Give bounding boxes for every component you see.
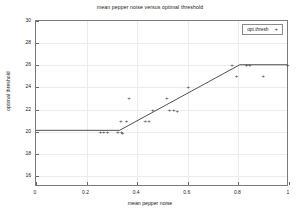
data-point-marker <box>261 74 266 79</box>
chart-title: mean pepper noise versus optimal thresho… <box>0 4 300 10</box>
x-tick-label: 0.4 <box>126 189 146 195</box>
y-tick-label: 20 <box>15 128 31 134</box>
y-tick-label: 22 <box>15 106 31 112</box>
x-tick-label: 0.6 <box>177 189 197 195</box>
data-point-marker <box>186 85 191 90</box>
y-axis-label: optimal threshold <box>5 51 11 131</box>
y-tick-label: 24 <box>15 83 31 89</box>
y-tick-label: 16 <box>15 172 31 178</box>
plot-area: opt.thresh + <box>35 20 288 186</box>
x-tick-label: 0.2 <box>76 189 96 195</box>
data-point-marker <box>285 63 290 68</box>
x-tick-label: 1 <box>278 189 298 195</box>
x-tick-mark <box>289 182 290 185</box>
x-axis-label: mean pepper noise <box>0 200 300 206</box>
data-point-marker <box>147 118 152 123</box>
y-tick-label: 28 <box>15 39 31 45</box>
y-tick-label: 30 <box>15 17 31 23</box>
data-point-marker <box>175 108 180 113</box>
y-tick-label: 18 <box>15 150 31 156</box>
legend: opt.thresh + <box>242 24 283 35</box>
x-tick-label: 0.8 <box>227 189 247 195</box>
data-point-marker <box>118 118 123 123</box>
data-point-marker <box>164 96 169 101</box>
figure: mean pepper noise versus optimal thresho… <box>0 0 300 216</box>
data-point-marker <box>124 118 129 123</box>
data-point-marker <box>105 129 110 134</box>
data-point-marker <box>230 63 235 68</box>
y-tick-label: 26 <box>15 61 31 67</box>
data-point-marker <box>234 74 239 79</box>
fit-line <box>36 21 287 185</box>
data-point-marker <box>150 107 155 112</box>
data-point-marker <box>247 63 252 68</box>
legend-label: opt.thresh <box>247 27 268 32</box>
data-point-marker <box>120 131 125 136</box>
legend-marker-plus-icon: + <box>274 27 278 32</box>
data-point-marker <box>127 96 132 101</box>
x-tick-label: 0 <box>25 189 45 195</box>
